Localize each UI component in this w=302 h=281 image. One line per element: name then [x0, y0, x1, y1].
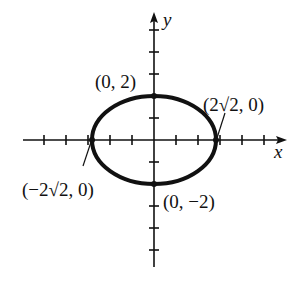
- leader-right: [217, 113, 225, 138]
- ellipse-graph: [0, 0, 302, 281]
- point-right: [213, 137, 219, 143]
- point-bottom: [151, 181, 157, 187]
- label-bottom-point: (0, −2): [163, 192, 215, 211]
- label-left-point: (−2√2, 0): [22, 180, 94, 199]
- label-top-point: (0, 2): [95, 72, 136, 91]
- point-left: [89, 137, 95, 143]
- point-top: [151, 93, 157, 99]
- x-axis: [23, 135, 287, 145]
- y-axis-label: y: [163, 10, 171, 29]
- label-right-point: (2√2, 0): [203, 95, 264, 114]
- x-axis-label: x: [274, 142, 282, 161]
- leader-left: [83, 142, 91, 166]
